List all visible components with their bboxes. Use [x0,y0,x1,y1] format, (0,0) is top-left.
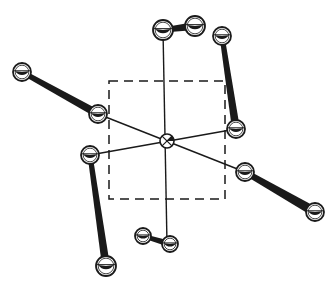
atom-ellipsoid [81,146,99,164]
crystal-structure-diagram [0,0,336,285]
molecule-lower-right [236,163,324,221]
atom-ellipsoid [185,16,205,36]
atom-ellipsoid [306,203,324,221]
atom-ellipsoid [13,63,31,81]
atom-ellipsoid [236,163,254,181]
molecule-upper-right [213,27,245,138]
central-atom [160,134,174,148]
atom-ellipsoid [227,120,245,138]
atom-ellipsoid [135,228,151,244]
covalent-bond [220,36,240,130]
atom-ellipsoid [89,105,107,123]
molecule-left-vertical [81,146,116,276]
atom-ellipsoid [162,236,178,252]
molecule-bottom [135,228,178,252]
atom-ellipsoid [96,256,116,276]
covalent-bond [21,70,100,118]
molecule-upper-left [13,63,107,123]
atom-ellipsoid [213,27,231,45]
atom-ellipsoid [153,20,173,40]
molecule-top [153,16,205,40]
covalent-bond [88,155,110,267]
